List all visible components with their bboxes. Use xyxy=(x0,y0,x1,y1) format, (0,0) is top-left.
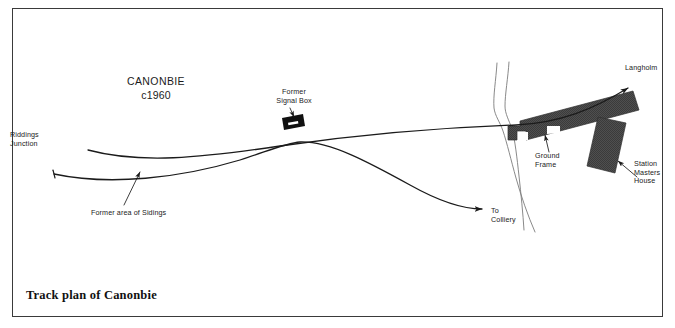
label-former-area-of-sidings: Former area of Sidings xyxy=(91,209,166,218)
diagram-border-frame xyxy=(12,8,663,317)
label-ground-frame: Ground Frame xyxy=(535,152,560,169)
label-riddings-junction: Riddings Junction xyxy=(10,131,39,148)
place-heading-year: c1960 xyxy=(106,88,206,102)
figure-caption: Track plan of Canonbie xyxy=(26,288,157,303)
place-heading: CANONBIE c1960 xyxy=(106,74,206,102)
label-to-colliery: To Colliery xyxy=(491,207,516,224)
label-langholm: Langholm xyxy=(625,64,657,73)
track-plan-figure: CANONBIE c1960 Riddings Junction Former … xyxy=(0,0,675,328)
label-former-signal-box: Former Signal Box xyxy=(268,88,320,105)
label-station-masters-house: Station Masters House xyxy=(634,160,660,186)
place-heading-name: CANONBIE xyxy=(127,75,185,87)
